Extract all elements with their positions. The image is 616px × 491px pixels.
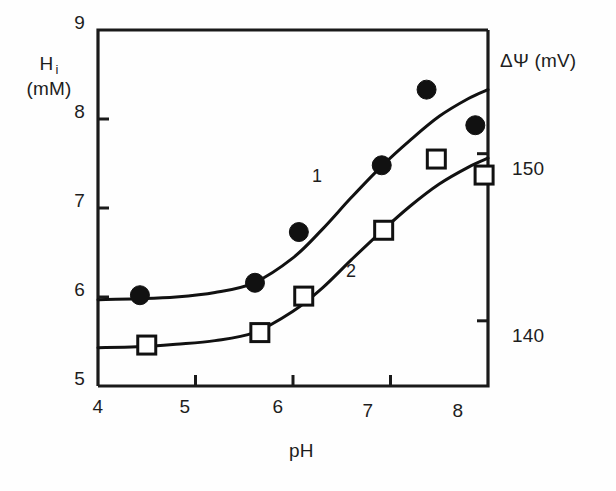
marker-series-1-point-4 — [417, 80, 436, 99]
fit-curves — [98, 90, 488, 348]
y-right-tick-150: 150 — [512, 158, 558, 180]
marker-series-1-point-1 — [245, 273, 264, 292]
x-tick-7: 7 — [353, 400, 383, 422]
y-right-tick-140: 140 — [512, 325, 558, 347]
marker-series-2-point-1 — [251, 324, 269, 342]
y-axis-left-title: Hi(mM) — [6, 52, 92, 101]
y-axis-left-units: (mM) — [6, 77, 92, 100]
marker-series-1-point-3 — [372, 156, 391, 175]
marker-series-1-point-5 — [466, 116, 485, 135]
marker-series-2-point-0 — [138, 336, 156, 354]
y-left-tick-9: 9 — [55, 12, 85, 34]
x-tick-8: 8 — [443, 400, 473, 422]
fit-curve-series-2 — [98, 158, 488, 348]
y-axis-left-symbol: H — [39, 53, 53, 74]
marker-series-2-point-4 — [427, 150, 445, 168]
curve-label-2: 2 — [346, 261, 356, 282]
marker-series-2-point-2 — [295, 287, 313, 305]
y-axis-right-title: ΔΨ (mV) — [500, 50, 576, 72]
marker-series-2-point-5 — [475, 166, 493, 184]
x-tick-6: 6 — [263, 396, 293, 418]
data-markers — [130, 80, 493, 354]
curve-label-1: 1 — [312, 166, 322, 187]
marker-series-1-point-0 — [130, 286, 149, 305]
x-axis-title: pH — [289, 440, 314, 462]
y-left-tick-5: 5 — [55, 368, 85, 390]
x-tick-5: 5 — [170, 396, 200, 418]
y-left-tick-8: 8 — [55, 101, 85, 123]
x-tick-4: 4 — [83, 396, 113, 418]
figure-container: Hi(mM) ΔΨ (mV) pH 9 8 7 6 5 150 140 4 5 … — [0, 0, 616, 491]
marker-series-1-point-2 — [289, 223, 308, 242]
y-left-tick-7: 7 — [55, 190, 85, 212]
marker-series-2-point-3 — [375, 221, 393, 239]
fit-curve-series-1 — [98, 90, 488, 300]
y-axis-left-subscript: i — [53, 62, 58, 77]
y-left-tick-6: 6 — [55, 279, 85, 301]
